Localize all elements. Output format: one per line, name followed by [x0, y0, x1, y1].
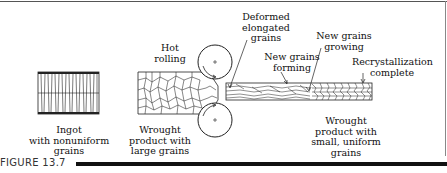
label-wrought-small: Wrought product with small, uniform grai… [306, 116, 386, 158]
label-new-grains-growing: New grains growing [314, 31, 374, 52]
label-hot-rolling: Hot rolling [150, 43, 190, 64]
label-line: small, uniform [306, 137, 386, 148]
figure-label: FIGURE 13.7 [0, 157, 66, 168]
label-line: forming [262, 63, 322, 74]
label-line: rolling [150, 54, 190, 65]
label-line: New grains [314, 31, 374, 42]
label-line: Deformed [236, 12, 296, 23]
label-line: New grains [262, 52, 322, 63]
label-line: complete [352, 68, 432, 79]
label-recrystallization: Recrystallization complete [352, 57, 432, 78]
label-line: Wrought [125, 125, 195, 136]
label-line: Recrystallization [352, 57, 432, 68]
label-line: Ingot [29, 125, 109, 136]
label-ingot: Ingot with nonuniform grains [29, 125, 109, 157]
rolled-strip [226, 83, 372, 100]
lower-roller [198, 103, 232, 137]
label-line: grains [29, 146, 109, 157]
upper-roller [198, 45, 232, 79]
label-line: growing [314, 42, 374, 53]
label-line: Wrought [306, 116, 386, 127]
label-line: grains [306, 148, 386, 159]
label-deformed-grains: Deformed elongated grains [236, 12, 296, 44]
label-wrought-large: Wrought product with large grains [125, 125, 195, 157]
figure-rule [76, 162, 447, 166]
label-new-grains-forming: New grains forming [262, 52, 322, 73]
label-line: Hot [150, 43, 190, 54]
label-line: grains [236, 33, 296, 44]
label-line: large grains [125, 146, 195, 157]
ingot-graphic [38, 72, 99, 114]
diagram-frame: Ingot with nonuniform grains Hot rolling… [0, 0, 447, 173]
